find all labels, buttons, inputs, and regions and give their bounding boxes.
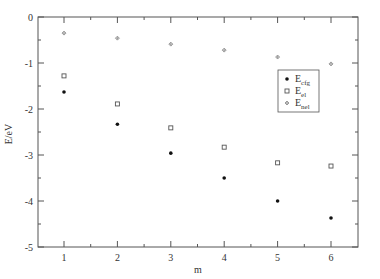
data-point	[276, 199, 280, 203]
legend: EcfgEelEnel	[278, 70, 319, 112]
data-point	[329, 62, 333, 66]
y-tick-label: 0	[28, 12, 33, 23]
y-tick-label: -3	[25, 150, 33, 161]
plot-frame	[38, 17, 358, 247]
axis-ticks: 1234560-1-2-3-4-5	[25, 12, 358, 263]
y-axis-label: E/eV	[3, 123, 14, 144]
y-tick-label: -4	[25, 196, 33, 207]
x-tick-label: 3	[168, 252, 173, 263]
x-tick-label: 6	[329, 252, 334, 263]
x-tick-label: 4	[222, 252, 227, 263]
scatter-chart: 1234560-1-2-3-4-5 m E/eV EcfgEelEnel	[0, 0, 380, 279]
y-tick-label: -2	[25, 104, 33, 115]
data-point	[222, 48, 226, 52]
data-point	[115, 36, 119, 40]
data-point	[62, 74, 66, 78]
series-e-nel	[62, 31, 333, 66]
data-point	[329, 164, 333, 168]
data-point	[329, 216, 333, 220]
plot-border	[38, 17, 358, 247]
data-point	[276, 55, 280, 59]
data-point	[222, 145, 226, 149]
data-point	[169, 151, 173, 155]
data-point	[115, 102, 119, 106]
x-tick-label: 5	[275, 252, 280, 263]
x-axis-label: m	[194, 264, 202, 275]
data-point	[62, 31, 66, 35]
data-point	[169, 42, 173, 46]
x-tick-label: 1	[62, 252, 67, 263]
data-points	[62, 31, 333, 220]
legend-marker-icon	[285, 77, 289, 81]
data-point	[62, 90, 66, 94]
data-point	[276, 161, 280, 165]
data-point	[116, 122, 120, 126]
data-point	[222, 176, 226, 180]
x-tick-label: 2	[115, 252, 120, 263]
y-tick-label: -5	[25, 242, 33, 253]
y-tick-label: -1	[25, 58, 33, 69]
data-point	[169, 126, 173, 130]
